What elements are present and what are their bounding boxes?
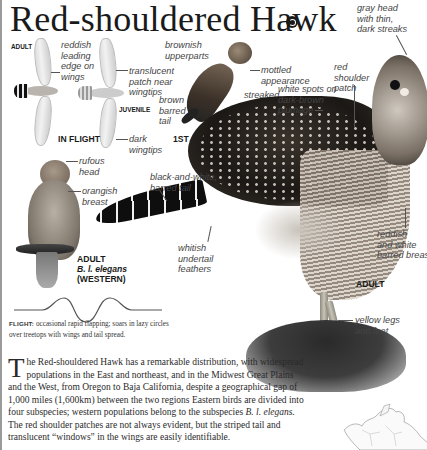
description-text-2: The red shoulder patches are not always … [8,420,281,443]
juvenile-flight-upper-wing [97,37,118,88]
adult-hawk-eye [390,80,400,90]
label-red-shoulder-patch: red shoulder patch [334,62,369,94]
label-translucent-patch: translucent patch near wingtips [129,66,174,98]
adult-hawk-undertail [254,200,344,260]
adult-caption: ADULT [356,279,384,289]
leader-line [250,70,260,71]
species-description: The Red-shouldered Hawk has a remarkable… [8,356,308,444]
western-caption-subspecies: B. l. elegans [77,264,127,274]
adult-flight-upper-wing [33,37,54,86]
leader-line [405,208,406,228]
leader-line [68,191,81,192]
label-mottled-appearance: mottled appearance [261,65,310,86]
leader-line [116,70,128,71]
description-subspecies: B. l. elegans. [245,407,294,417]
adult-hawk-cere [400,88,409,96]
label-reddish-barred-breast: reddish and white barred breast [377,229,427,261]
juvenile-flight-lower-wing [97,97,118,148]
label-brown-barred-tail: brown barred tail [159,95,186,127]
label-brownish-upperparts: brownish upperparts [165,40,209,61]
label-whitish-undertail: whitish undertail feathers [178,243,213,275]
leader-line [315,110,323,111]
juvenile-flight-tail [78,86,92,100]
adult-flight-body [24,86,58,96]
flight-label: FLIGHT: [9,320,34,327]
in-flight-caption: IN FLIGHT [58,134,100,144]
label-rufous-head: rufous head [79,156,105,177]
drop-cap: T [8,357,25,379]
range-map-icon [340,400,427,450]
first-spring-hawk-head [228,42,252,64]
leader-line [51,72,60,73]
western-caption-adult: ADULT [77,254,105,264]
speaker-icon[interactable] [286,16,298,28]
label-gray-head: gray head with thin, dark streaks [357,3,407,35]
western-caption-region: (WESTERN) [77,274,126,284]
label-white-spots: white spots on dark-brown plumage [278,84,337,116]
field-guide-page: Red-shouldered Hawk ADULT reddish leadin… [0,0,427,450]
adult-hawk-head [372,55,427,165]
adult-flight-lower-wing [32,95,53,146]
label-yellow-legs: yellow legs and feet [355,315,400,336]
western-hawk-tail [36,252,58,288]
juvenile-flight-body [88,88,124,98]
label-dark-wingtips: dark wingtips [129,134,162,155]
flight-adult-caption: ADULT [11,42,32,52]
leader-line [66,161,78,162]
label-reddish-leading-edge: reddish leading edge on wings [61,40,94,82]
juvenile-caption: JUVENILE [119,105,150,115]
flight-description: FLIGHT: occasional rapid flapping; soars… [9,319,179,340]
leader-line [354,85,355,127]
leader-line [338,320,353,321]
leader-line [116,139,128,140]
leader-line [396,35,407,55]
leader-line [207,226,211,242]
adult-flight-tail [14,84,28,98]
